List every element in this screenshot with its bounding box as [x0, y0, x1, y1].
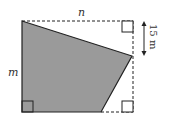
- arrowhead-down-icon: [142, 51, 147, 56]
- right-angle-mark-top-right: [122, 21, 133, 32]
- right-angle-mark-bottom-right: [122, 101, 133, 112]
- label-15m: 15 m: [148, 24, 159, 50]
- diagram-canvas: n m 15 m: [0, 0, 171, 122]
- arrowhead-up-icon: [142, 21, 147, 26]
- shaded-region: [22, 21, 132, 112]
- label-n: n: [78, 6, 85, 19]
- diagram-svg: n m 15 m: [0, 0, 171, 122]
- label-m: m: [8, 66, 18, 79]
